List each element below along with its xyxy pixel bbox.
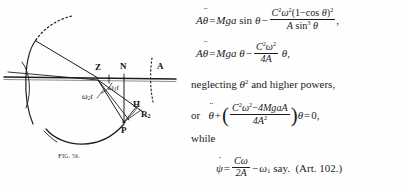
eq1-den-sin: sin (296, 20, 308, 31)
eq4-omega-sub: 1 (267, 167, 271, 175)
eq1-num-close-exp: 2 (330, 6, 333, 13)
eq1-den-A: A (287, 20, 293, 31)
neglecting-text-after: and higher powers, (251, 78, 335, 90)
equation-2: Aθ=Mga θ− C2ω2 4A θ, (196, 43, 290, 66)
eq3-den-exp: 2 (264, 114, 267, 121)
eq2-num-omega-exp: 2 (273, 40, 276, 47)
figure-label-R2: R2 (141, 110, 151, 119)
equations-panel: Aθ=Mga sin θ− C2ω2(1−cos θ)2 A sin3 θ , … (186, 0, 402, 187)
equation-3: or θ+( C2ω2−4MgaA 4A2 )θ=0, (191, 104, 320, 128)
eq2-denominator: 4A (254, 53, 278, 65)
eq2-fraction: C2ω2 4A (254, 41, 278, 64)
while-word: while (191, 133, 215, 144)
eq2-minus: − (245, 47, 253, 59)
figure-label-H: H (133, 100, 140, 109)
slant-line-through-z (8, 72, 98, 80)
neglecting-theta-exp: 2 (245, 78, 248, 85)
eq4-article-reference: (Art. 102.) (295, 162, 342, 174)
eq2-theta-ddot: θ (203, 48, 208, 59)
eq3-paren-open: ( (222, 108, 229, 123)
dotted-vertical-curve (151, 58, 153, 102)
figure-label-omega2t: ω2t (82, 93, 93, 102)
angle-arc-omega2 (97, 89, 104, 98)
eq3-den-4A: 4A (253, 115, 264, 126)
figure-label-omega1t: ω1t (108, 84, 119, 93)
radius-line-upper (36, 41, 98, 78)
figure-panel: Z N A H P R2 ω1t ω2t FIG. 56. (0, 0, 185, 187)
lower-bowl-arc (46, 124, 124, 144)
eq2-A: A (196, 47, 203, 59)
neglecting-line: neglecting θ2 and higher powers, (191, 79, 335, 90)
scanned-page: Z N A H P R2 ω1t ω2t FIG. 56. Aθ=Mga sin… (0, 0, 402, 187)
figure-label-N: N (120, 62, 127, 71)
eq1-num-cos: cos (306, 7, 319, 18)
eq1-num-omega: ω (281, 7, 288, 18)
eq4-omega: ω (259, 162, 267, 174)
eq3-numerator: C2ω2−4MgaA (230, 102, 290, 114)
eq1-sin: sin (239, 14, 252, 26)
eq3-plus: + (214, 109, 222, 121)
eq1-den-sin-exp: 3 (307, 19, 310, 26)
equation-4: ψ= Cω 2A −ω1 say. (Art. 102.) (216, 158, 342, 180)
eq3-num-omega: ω (242, 102, 249, 113)
eq1-Mga: Mga (216, 14, 236, 26)
omega2-t: t (90, 92, 92, 101)
eq4-numerator: Cω (232, 156, 250, 167)
eq3-zero: 0, (311, 109, 319, 121)
neglecting-text-before: neglecting (191, 78, 237, 90)
eq2-num-C: C (256, 41, 263, 52)
eq2-comma: , (287, 47, 290, 59)
figure-label-A: A (157, 62, 164, 71)
eq4-num-C: C (234, 155, 241, 166)
eq3-fraction: C2ω2−4MgaA 4A2 (230, 102, 290, 126)
eq4-say: say. (273, 162, 290, 174)
eq1-comma: , (336, 14, 339, 26)
eq3-denominator: 4A2 (230, 114, 290, 127)
eq2-num-omega: ω (266, 41, 273, 52)
omega1-t: t (116, 83, 118, 92)
eq1-num-paren-open: (1 (292, 7, 300, 18)
upper-dotted-arc (36, 16, 72, 40)
figure-label-R2-sub: 2 (148, 113, 151, 119)
eq1-A: A (196, 14, 203, 26)
eq1-minus: − (260, 14, 268, 26)
equation-1: Aθ=Mga sin θ− C2ω2(1−cos θ)2 A sin3 θ , (196, 9, 339, 33)
figure-label-P: P (121, 126, 127, 135)
eq1-theta-ddot: θ (203, 15, 208, 26)
figure-caption-rest: IG. 56. (62, 153, 80, 159)
point-P-marker (122, 120, 125, 123)
eq1-numerator: C2ω2(1−cos θ)2 (270, 7, 336, 19)
eq3-num-rest: 4MgaA (258, 102, 288, 113)
eq4-num-omega: ω (241, 155, 248, 166)
eq4-fraction: Cω 2A (232, 156, 250, 178)
eq4-psi-dot: ψ (216, 163, 223, 174)
eq1-denominator: A sin3 θ (270, 19, 336, 32)
eq2-theta: θ (239, 47, 244, 59)
eq4-minus: − (251, 162, 259, 174)
eq2-Mga: Mga (216, 47, 236, 59)
eq3-paren-close: ) (291, 108, 298, 123)
eq1-fraction: C2ω2(1−cos θ)2 A sin3 θ (270, 7, 336, 31)
eq3-or-word: or (191, 109, 200, 121)
eq1-den-theta: θ (313, 20, 318, 31)
eq3-theta-ddot: θ (208, 110, 213, 121)
left-meridian-arc (26, 40, 36, 124)
eq4-equals: = (223, 162, 231, 174)
figure-caption: FIG. 56. (58, 152, 80, 160)
eq4-denominator: 2A (232, 167, 250, 179)
figure-label-Z: Z (95, 63, 101, 72)
eq3-num-C: C (232, 102, 239, 113)
eq2-numerator: C2ω2 (254, 41, 278, 53)
